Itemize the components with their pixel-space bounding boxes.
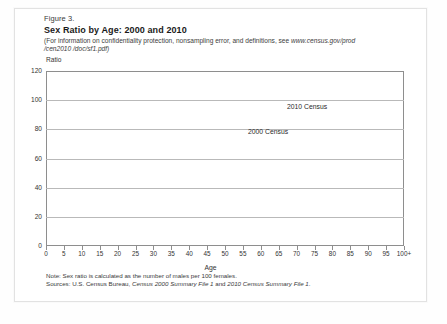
x-tick-label: 25 (132, 250, 139, 257)
sources-conjunction: and (214, 280, 228, 287)
x-tick-mark (82, 246, 83, 250)
x-tick-mark (153, 246, 154, 250)
x-tick-label: 60 (257, 250, 264, 257)
series-label-2010: 2010 Census (287, 103, 327, 110)
x-tick-label: 70 (293, 250, 300, 257)
x-tick-label: 0 (44, 250, 48, 257)
x-axis-title: Age (0, 264, 447, 271)
x-tick-label: 85 (347, 250, 354, 257)
x-tick-label: 45 (204, 250, 211, 257)
sources-period: . (309, 280, 311, 287)
figure-title: Sex Ratio by Age: 2000 and 2010 (44, 24, 416, 36)
x-tick-label: 15 (96, 250, 103, 257)
gridline (46, 159, 404, 160)
x-tick-mark (64, 246, 65, 250)
x-tick-mark (315, 246, 316, 250)
gridline (46, 217, 404, 218)
x-tick-mark (350, 246, 351, 250)
y-tick-label: 120 (8, 67, 42, 74)
x-tick-label: 65 (275, 250, 282, 257)
x-tick-mark (225, 246, 226, 250)
y-tick-label: 0 (8, 242, 42, 249)
y-tick-label: 40 (8, 184, 42, 191)
y-tick-label: 60 (8, 155, 42, 162)
note-line: Note: Sex ratio is calculated as the num… (46, 272, 406, 280)
gridline (46, 188, 404, 189)
x-tick-mark (368, 246, 369, 250)
x-tick-mark (171, 246, 172, 250)
figure-number: Figure 3. (44, 14, 416, 24)
x-tick-label: 35 (168, 250, 175, 257)
subtitle-url-part2: /cen2010 /doc/sf1.pdf) (44, 45, 109, 52)
x-tick-mark (189, 246, 190, 250)
x-tick-label: 95 (383, 250, 390, 257)
x-tick-mark (404, 246, 405, 250)
sources-prefix: Sources: U.S. Census Bureau, (46, 280, 132, 287)
x-tick-mark (118, 246, 119, 250)
x-tick-mark (297, 246, 298, 250)
x-tick-label: 80 (329, 250, 336, 257)
sources-title-1: Census 2000 Summary File 1 (132, 280, 214, 287)
x-tick-label: 30 (150, 250, 157, 257)
gridline (46, 100, 404, 101)
x-tick-label: 75 (311, 250, 318, 257)
sources-title-2: 2010 Census Summary File 1 (227, 280, 309, 287)
plot-area (46, 71, 404, 246)
series-label-2000: 2000 Census (248, 128, 288, 135)
x-tick-mark (261, 246, 262, 250)
x-tick-mark (243, 246, 244, 250)
figure-subtitle: (For information on confidentiality prot… (44, 37, 416, 54)
x-tick-mark (207, 246, 208, 250)
subtitle-url-part1: www.census.gov/prod (291, 37, 355, 44)
x-tick-mark (46, 246, 47, 250)
subtitle-text: (For information on confidentiality prot… (44, 37, 291, 44)
x-tick-label: 90 (365, 250, 372, 257)
x-tick-mark (332, 246, 333, 250)
x-tick-label: 10 (78, 250, 85, 257)
x-tick-mark (136, 246, 137, 250)
x-tick-mark (386, 246, 387, 250)
y-axis-title: Ratio (46, 56, 61, 63)
x-tick-label: 20 (114, 250, 121, 257)
sources-line: Sources: U.S. Census Bureau, Census 2000… (46, 280, 406, 288)
gridline (46, 129, 404, 130)
x-tick-label: 55 (239, 250, 246, 257)
x-axis-ticks: 0510152025303540455055606570758085909510… (46, 250, 404, 262)
y-tick-label: 80 (8, 125, 42, 132)
y-tick-label: 20 (8, 213, 42, 220)
figure-page: Figure 3. Sex Ratio by Age: 2000 and 201… (0, 0, 447, 324)
y-axis-ticks: 020406080100120 (4, 71, 42, 246)
x-tick-label: 40 (186, 250, 193, 257)
x-tick-label: 100+ (397, 250, 411, 257)
x-tick-label: 50 (221, 250, 228, 257)
x-tick-label: 5 (62, 250, 66, 257)
y-tick-label: 100 (8, 96, 42, 103)
x-tick-mark (100, 246, 101, 250)
figure-header: Figure 3. Sex Ratio by Age: 2000 and 201… (44, 14, 416, 54)
figure-footnotes: Note: Sex ratio is calculated as the num… (46, 272, 406, 289)
x-tick-mark (279, 246, 280, 250)
